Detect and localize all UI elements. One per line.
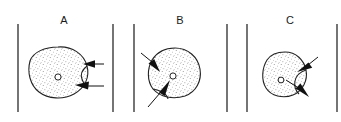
panel-b-label: B bbox=[176, 14, 183, 26]
cell-a-outline bbox=[29, 47, 88, 98]
panel-b: B bbox=[141, 14, 200, 107]
diagram-svg: A B bbox=[0, 0, 341, 122]
arrow-b-upper-shaft bbox=[141, 53, 152, 62]
stippled-cell-a bbox=[29, 47, 88, 98]
panel-a-label: A bbox=[60, 14, 68, 26]
panel-c: C bbox=[263, 14, 318, 97]
cell-c-nucleus-icon bbox=[278, 77, 284, 83]
cell-b-nucleus-icon bbox=[170, 73, 176, 79]
cell-a-nucleus-icon bbox=[55, 74, 61, 80]
figure-canvas: A B bbox=[0, 0, 341, 122]
panel-c-label: C bbox=[286, 14, 294, 26]
panel-a: A bbox=[29, 14, 104, 98]
arrow-b-lower-shaft bbox=[148, 93, 160, 107]
arrow-c-upper-shaft bbox=[308, 57, 318, 65]
